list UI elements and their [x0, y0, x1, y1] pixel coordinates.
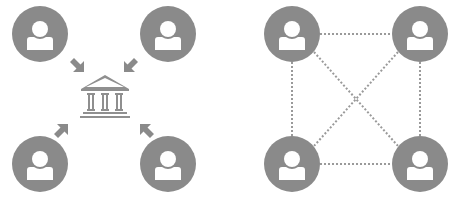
user-icon [264, 136, 320, 192]
user-icon [264, 6, 320, 62]
user-node-top-left [12, 6, 68, 62]
arrow-icon [70, 58, 84, 72]
arrow-icon [140, 124, 154, 138]
arrow-icon [124, 58, 138, 72]
user-icon [140, 6, 196, 62]
peer-node-top-left [264, 6, 320, 62]
user-node-bottom-right [140, 136, 196, 192]
bank-icon [80, 75, 130, 118]
user-node-bottom-left [12, 136, 68, 192]
user-icon [392, 6, 448, 62]
user-node-top-right [140, 6, 196, 62]
network-comparison-diagram [0, 0, 458, 198]
peer-node-bottom-left [264, 136, 320, 192]
peer-node-bottom-right [392, 136, 448, 192]
user-icon [12, 6, 68, 62]
peer-to-peer-network [264, 6, 448, 192]
peer-node-top-right [392, 6, 448, 62]
link-diagonal-1 [314, 52, 398, 146]
user-icon [140, 136, 196, 192]
user-icon [12, 136, 68, 192]
user-icon [392, 136, 448, 192]
centralized-network [12, 6, 196, 192]
link-diagonal-2 [314, 52, 398, 146]
arrow-icon [54, 124, 68, 138]
